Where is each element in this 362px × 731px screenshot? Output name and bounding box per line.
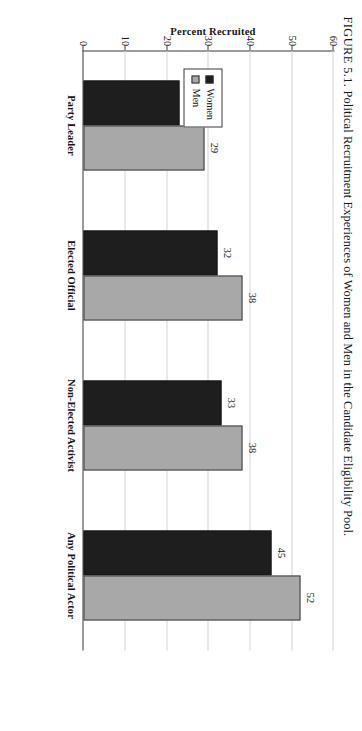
- bar-group: 4552: [83, 530, 335, 620]
- legend-label-women: Women: [204, 88, 215, 119]
- legend-entry: Men: [189, 75, 202, 119]
- plot-area: 2329323833384552WomenMen: [82, 50, 334, 650]
- y-axis-tick: [332, 45, 333, 50]
- category-label-any-political-actor: Any Political Actor: [65, 500, 76, 650]
- bar-value-label: 38: [246, 292, 257, 302]
- chart-legend: WomenMen: [183, 68, 222, 127]
- bar-men-any-political-actor: 52: [83, 575, 300, 620]
- y-axis-tick-label: 10: [120, 35, 131, 46]
- bar-value-label: 52: [304, 592, 315, 602]
- bar-women-party-leader: 23: [83, 80, 179, 125]
- y-axis-tick-label: 60: [328, 35, 339, 46]
- legend-swatch-men: [192, 75, 200, 83]
- y-axis-tick-label: 40: [245, 35, 256, 46]
- bar-men-non-elected-activist: 38: [83, 425, 241, 470]
- bar-women-any-political-actor: 45: [83, 530, 271, 575]
- y-axis-tick-labels: 0102030405060: [82, 22, 334, 46]
- bar-value-label: 29: [208, 142, 219, 152]
- y-axis-tick-label: 30: [203, 35, 214, 46]
- bar-value-label: 45: [275, 547, 286, 557]
- y-axis-tick: [124, 45, 125, 50]
- bar-men-elected-official: 38: [83, 275, 241, 320]
- y-axis-tick: [166, 45, 167, 50]
- y-axis-tick: [249, 45, 250, 50]
- legend-entry: Women: [203, 75, 216, 119]
- y-axis-tick: [207, 45, 208, 50]
- category-label-elected-official: Elected Official: [65, 200, 76, 350]
- bar-men-party-leader: 29: [83, 125, 204, 170]
- bar-value-label: 32: [221, 247, 232, 257]
- y-axis-tick: [291, 45, 292, 50]
- category-label-non-elected-activist: Non-Elected Activist: [65, 350, 76, 500]
- x-axis-category-labels: Party LeaderElected OfficialNon-Elected …: [56, 50, 78, 650]
- bar-chart: Percent Recruited 0102030405060 23293238…: [8, 0, 334, 731]
- y-axis-tick: [82, 45, 83, 50]
- bar-value-label: 33: [225, 397, 236, 407]
- bar-women-non-elected-activist: 33: [83, 380, 221, 425]
- bar-group: 3338: [83, 380, 335, 470]
- figure-caption: FIGURE 5.1. Political Recruitment Experi…: [339, 16, 354, 716]
- legend-swatch-women: [206, 75, 214, 83]
- bar-value-label: 38: [246, 442, 257, 452]
- category-label-party-leader: Party Leader: [65, 50, 76, 200]
- y-axis-tick-label: 50: [286, 35, 297, 46]
- bar-group: 3238: [83, 230, 335, 320]
- y-axis-tick-label: 20: [161, 35, 172, 46]
- scanned-page: FIGURE 5.1. Political Recruitment Experi…: [0, 0, 362, 731]
- legend-label-men: Men: [190, 88, 201, 107]
- figure-number: FIGURE 5.1.: [340, 16, 354, 87]
- figure-caption-text: Political Recruitment Experiences of Wom…: [340, 90, 354, 536]
- bar-women-elected-official: 32: [83, 230, 216, 275]
